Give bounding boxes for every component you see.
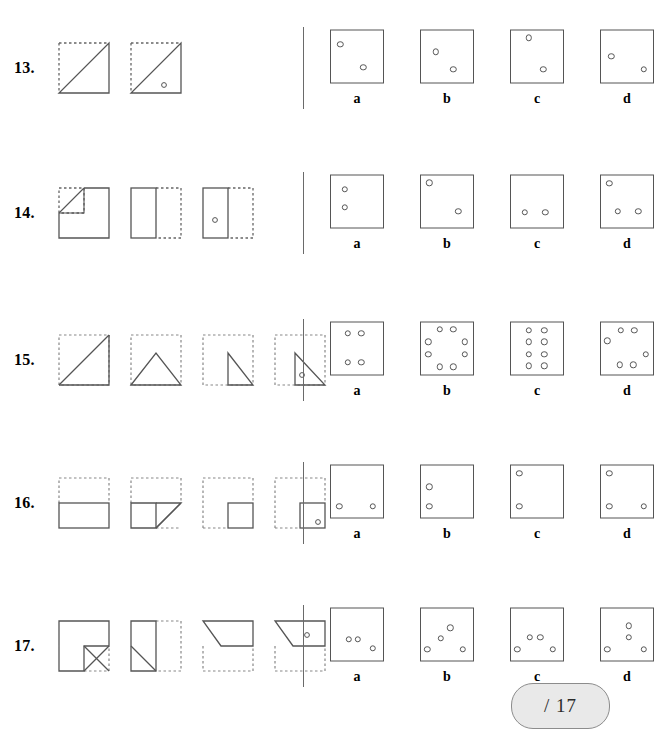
option-b[interactable]: b [420, 321, 474, 398]
option-a[interactable]: a [330, 29, 384, 106]
fold-stage [127, 617, 185, 675]
row-divider [303, 27, 304, 109]
option-label: d [623, 668, 631, 684]
question-number: 15. [14, 351, 35, 369]
hole-icon [345, 636, 351, 642]
option-label: a [354, 668, 361, 684]
question-row: 15. [0, 292, 627, 427]
hole-icon [450, 364, 456, 370]
hole-icon [426, 180, 432, 186]
option-d[interactable]: d [600, 29, 654, 106]
hole-icon [305, 632, 310, 637]
hole-icon [606, 180, 612, 186]
option-box [420, 174, 474, 228]
option-label: b [443, 668, 451, 684]
hole-icon [604, 338, 610, 344]
hole-icon [426, 503, 432, 509]
hole-icon [608, 53, 614, 59]
hole-icon [360, 64, 366, 70]
hole-icon [162, 82, 167, 87]
hole-icon [337, 41, 343, 47]
fold-stage-list [55, 617, 329, 675]
option-a[interactable]: a [330, 607, 384, 684]
question-row: 14. [0, 145, 627, 280]
option-b[interactable]: b [420, 174, 474, 251]
option-b[interactable]: b [420, 607, 474, 684]
hole-icon [617, 361, 623, 367]
option-c[interactable]: c [510, 464, 564, 541]
option-label: a [354, 525, 361, 541]
hole-icon [606, 503, 612, 509]
hole-icon [424, 646, 430, 652]
hole-icon [626, 622, 632, 628]
answer-options: a b c d [330, 29, 654, 106]
option-box [420, 607, 474, 661]
hole-icon [514, 646, 520, 652]
option-label: a [354, 382, 361, 398]
option-label: d [623, 525, 631, 541]
hole-icon [336, 503, 342, 509]
hole-icon [537, 634, 543, 640]
hole-icon [630, 361, 636, 367]
fold-stage [55, 617, 113, 675]
answer-options: a b [330, 321, 654, 398]
option-a[interactable]: a [330, 464, 384, 541]
option-box [420, 464, 474, 518]
option-box [600, 321, 654, 375]
fold-stage-with-hole [199, 184, 257, 242]
hole-icon [455, 208, 461, 214]
option-box [420, 29, 474, 83]
option-d[interactable]: d [600, 174, 654, 251]
option-c[interactable]: c [510, 174, 564, 251]
hole-icon [549, 646, 555, 652]
option-box [600, 29, 654, 83]
fold-stage [127, 184, 185, 242]
option-label: d [623, 90, 631, 106]
hole-icon [369, 503, 375, 509]
hole-icon [516, 503, 522, 509]
hole-icon [461, 351, 467, 357]
hole-icon [461, 339, 467, 345]
option-box [510, 321, 564, 375]
question-number: 16. [14, 494, 35, 512]
row-divider [303, 172, 304, 254]
option-d[interactable]: d [600, 464, 654, 541]
option-c[interactable]: c [510, 29, 564, 106]
question-number: 17. [14, 637, 35, 655]
option-d[interactable]: d [600, 321, 654, 398]
answer-options: a b c [330, 174, 654, 251]
fold-stage [55, 331, 113, 389]
hole-icon [358, 330, 364, 336]
option-box [330, 607, 384, 661]
option-a[interactable]: a [330, 321, 384, 398]
option-b[interactable]: b [420, 29, 474, 106]
option-label: c [534, 525, 540, 541]
hole-icon [437, 364, 443, 370]
hole-icon [640, 503, 646, 509]
hole-icon [614, 208, 620, 214]
score-box[interactable]: / 17 [511, 683, 610, 729]
option-a[interactable]: a [330, 174, 384, 251]
hole-icon [521, 209, 527, 215]
fold-stage [55, 184, 113, 242]
option-label: b [443, 90, 451, 106]
option-c[interactable]: c [510, 607, 564, 684]
option-box [510, 29, 564, 83]
hole-icon [631, 327, 637, 333]
option-d[interactable]: d [600, 607, 654, 684]
option-box [600, 174, 654, 228]
hole-icon [643, 351, 649, 357]
option-box [600, 464, 654, 518]
fold-stage-list [55, 331, 329, 389]
fold-stage-with-hole [271, 474, 329, 532]
hole-icon [344, 330, 350, 336]
option-c[interactable]: c [510, 321, 564, 398]
answer-options: a b c [330, 607, 654, 684]
hole-icon [432, 49, 438, 55]
hole-icon [425, 339, 431, 345]
option-b[interactable]: b [420, 464, 474, 541]
hole-icon [541, 351, 547, 357]
option-box [330, 29, 384, 83]
fold-stage-with-hole [271, 617, 329, 675]
